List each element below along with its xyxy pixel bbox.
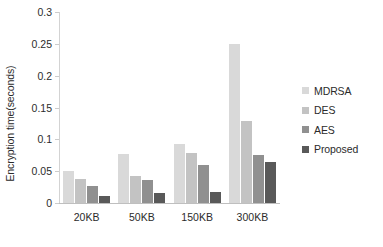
y-tick-mark <box>55 203 59 204</box>
y-tick-mark <box>55 76 59 77</box>
bar <box>253 155 264 203</box>
bar <box>130 176 141 203</box>
legend-item: AES <box>302 120 382 140</box>
y-tick-label: 0.1 <box>37 133 52 145</box>
y-tick-label: 0.2 <box>37 70 52 82</box>
legend-label: Proposed <box>314 143 358 155</box>
bar <box>210 192 221 203</box>
y-tick-mark <box>55 108 59 109</box>
x-tick-label: 300KB <box>237 211 269 223</box>
legend-label: AES <box>314 124 335 136</box>
legend-item: Proposed <box>302 140 382 160</box>
bar <box>142 180 153 203</box>
bar <box>154 193 165 203</box>
y-tick-mark <box>55 171 59 172</box>
plot-area: 0.30.250.20.150.10.050 20KB50KB150KB300K… <box>59 12 280 203</box>
bar-group <box>229 12 276 203</box>
legend-swatch-icon <box>302 87 309 94</box>
y-tick-mark <box>55 44 59 45</box>
bar <box>186 153 197 203</box>
bar <box>63 171 74 203</box>
y-tick-label: 0.05 <box>32 165 52 177</box>
x-tick-label: 20KB <box>74 211 100 223</box>
legend-swatch-icon <box>302 126 309 133</box>
bar <box>198 165 209 203</box>
y-axis-line <box>59 12 60 203</box>
y-tick-label: 0.15 <box>32 102 52 114</box>
legend-swatch-icon <box>302 146 309 153</box>
bar-group <box>118 12 165 203</box>
legend-item: MDRSA <box>302 81 382 101</box>
y-tick-label: 0.25 <box>32 38 52 50</box>
x-tick-label: 50KB <box>129 211 155 223</box>
x-axis-line <box>59 203 280 204</box>
bar <box>75 179 86 203</box>
bar-chart-figure: Encryption time(seconds) 0.30.250.20.150… <box>0 0 383 247</box>
bar-group <box>63 12 110 203</box>
chart-legend: MDRSADESAESProposed <box>302 81 382 159</box>
y-axis-title: Encryption time(seconds) <box>0 0 20 247</box>
legend-label: DES <box>314 104 335 116</box>
bar <box>174 144 185 203</box>
y-tick-mark <box>55 12 59 13</box>
legend-item: DES <box>302 101 382 121</box>
bar <box>87 186 98 203</box>
legend-swatch-icon <box>302 107 309 114</box>
legend-label: MDRSA <box>314 85 351 97</box>
y-tick-label: 0.3 <box>37 6 52 18</box>
y-tick-mark <box>55 139 59 140</box>
bar <box>265 162 276 203</box>
bar-group <box>174 12 221 203</box>
x-tick-label: 150KB <box>181 211 213 223</box>
y-tick-label: 0 <box>46 197 52 209</box>
bar <box>241 121 252 203</box>
bar <box>99 196 110 203</box>
bar <box>229 44 240 203</box>
bar <box>118 154 129 203</box>
